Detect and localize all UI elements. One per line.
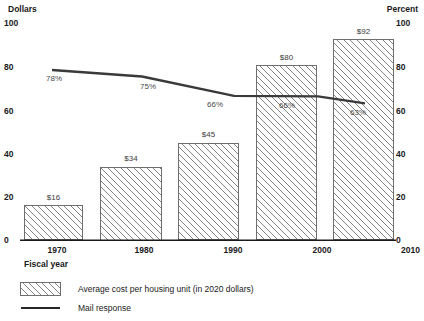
legend-label-average-cost: Average cost per housing unit (in 2020 d… <box>78 284 254 294</box>
x-axis-tick-2000: 2000 <box>313 245 332 255</box>
x-axis-tick-2010: 2010 <box>401 245 420 255</box>
line-label-2010: 63% <box>350 108 366 117</box>
legend: Average cost per housing unit (in 2020 d… <box>20 279 410 317</box>
x-axis-tick-1970: 1970 <box>48 245 67 255</box>
legend-item-mail-response: Mail response <box>20 298 410 317</box>
series-overlay-svg <box>0 0 424 241</box>
legend-item-average-cost: Average cost per housing unit (in 2020 d… <box>20 279 410 298</box>
line-segment-icon <box>20 301 61 315</box>
hatched-square-icon <box>20 282 61 296</box>
x-axis-tick-1990: 1990 <box>224 245 243 255</box>
x-axis-tick-1980: 1980 <box>135 245 154 255</box>
mail-response-line <box>52 70 365 103</box>
line-label-1980: 75% <box>140 82 156 91</box>
legend-label-mail-response: Mail response <box>78 303 131 313</box>
line-label-1990: 66% <box>207 100 223 109</box>
census-cost-response-chart: Dollars Percent 100 80 60 40 20 0 100 80… <box>0 0 424 321</box>
plot-area: $16 $34 $45 $80 $92 78% 75% 66% 66% 63% <box>0 0 424 241</box>
line-label-2000: 66% <box>279 101 295 110</box>
line-label-1970: 78% <box>46 74 62 83</box>
x-axis-caption: Fiscal year <box>24 259 68 269</box>
